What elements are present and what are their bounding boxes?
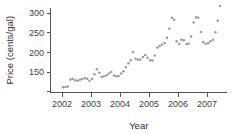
data-point <box>185 43 188 46</box>
data-point <box>214 31 217 34</box>
data-point <box>74 79 77 82</box>
y-tick-label: 150 <box>29 67 44 77</box>
x-tick-label: 2005 <box>139 99 159 109</box>
data-point <box>84 77 87 80</box>
data-point <box>168 27 171 30</box>
data-point <box>122 70 125 73</box>
data-point <box>96 68 99 71</box>
data-point <box>219 5 222 8</box>
data-point <box>93 73 96 76</box>
data-point <box>62 86 65 89</box>
x-axis-label: Year <box>129 120 148 131</box>
data-point <box>79 79 82 82</box>
data-point <box>132 51 135 54</box>
data-point <box>134 57 137 60</box>
data-point <box>144 54 147 57</box>
data-point <box>163 42 166 45</box>
data-point <box>91 78 94 81</box>
data-point <box>69 78 72 81</box>
data-point <box>142 56 145 59</box>
plot-svg: 150200250300200220032004200520062007Year… <box>0 0 233 134</box>
data-point <box>86 77 89 80</box>
data-point <box>204 42 207 45</box>
data-point <box>207 42 210 45</box>
data-point <box>192 21 195 24</box>
data-point <box>180 39 183 42</box>
data-point <box>202 41 205 44</box>
data-point <box>113 74 116 77</box>
data-point <box>108 72 111 75</box>
data-point <box>212 39 215 42</box>
data-point <box>187 42 190 45</box>
y-tick-label: 250 <box>29 28 44 38</box>
data-point <box>67 85 70 88</box>
data-point <box>88 79 91 82</box>
data-point <box>156 46 159 49</box>
data-point <box>151 59 154 62</box>
data-point <box>200 31 203 33</box>
data-point <box>216 20 219 23</box>
data-point <box>190 35 193 38</box>
data-point <box>103 75 106 78</box>
data-point <box>76 79 79 82</box>
data-point <box>183 39 186 42</box>
scatter-chart: 150200250300200220032004200520062007Year… <box>0 0 233 134</box>
data-point <box>195 16 198 19</box>
data-point <box>117 75 120 78</box>
data-point <box>149 59 152 62</box>
data-point <box>137 59 140 62</box>
x-tick-label: 2006 <box>168 99 188 109</box>
data-point <box>178 42 181 45</box>
data-point <box>125 66 128 69</box>
data-point <box>161 43 164 46</box>
data-point <box>105 74 108 77</box>
data-point <box>209 40 212 43</box>
data-point <box>115 75 118 78</box>
data-point <box>173 18 176 21</box>
data-point <box>100 76 103 79</box>
data-point <box>64 86 67 89</box>
data-point <box>197 16 200 19</box>
x-tick-label: 2002 <box>52 99 72 109</box>
data-point <box>171 16 174 19</box>
data-point <box>175 40 178 43</box>
data-point <box>146 57 149 60</box>
data-point <box>81 78 84 81</box>
x-tick-label: 2004 <box>110 99 130 109</box>
data-point <box>154 54 157 57</box>
data-point <box>139 58 142 61</box>
data-point <box>110 71 113 74</box>
x-tick-label: 2007 <box>197 99 217 109</box>
data-point <box>127 62 130 65</box>
data-point <box>120 72 123 75</box>
y-tick-label: 200 <box>29 48 44 58</box>
data-point <box>158 45 161 48</box>
y-axis-label: Price (cents/gal) <box>4 16 15 85</box>
y-tick-label: 300 <box>29 8 44 18</box>
data-point <box>98 72 101 75</box>
x-tick-label: 2003 <box>81 99 101 109</box>
data-point <box>71 77 74 80</box>
data-point <box>129 59 132 62</box>
data-point <box>166 37 169 40</box>
